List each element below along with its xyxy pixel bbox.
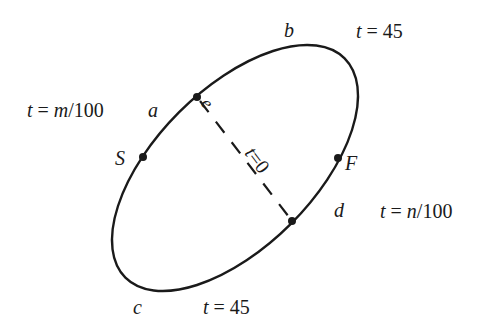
point-F xyxy=(334,154,342,162)
time-label-bottom: t = 45 xyxy=(203,296,250,318)
time-label-right: t = n/100 xyxy=(380,200,452,222)
point-S xyxy=(139,153,147,161)
label-d: d xyxy=(334,199,345,221)
ellipse-diagram: a b c d e S F t=0 t = 45 t = 45 t = m/10… xyxy=(0,0,482,334)
time-label-top-right: t = 45 xyxy=(356,20,403,42)
label-S: S xyxy=(115,147,125,169)
label-b: b xyxy=(284,19,294,41)
point-d xyxy=(288,217,296,225)
label-F: F xyxy=(344,152,358,174)
time-label-left: t = m/100 xyxy=(27,99,104,121)
label-a: a xyxy=(148,99,158,121)
label-c: c xyxy=(133,296,142,318)
chord-label-t0: t=0 xyxy=(241,142,275,177)
point-e xyxy=(193,93,201,101)
